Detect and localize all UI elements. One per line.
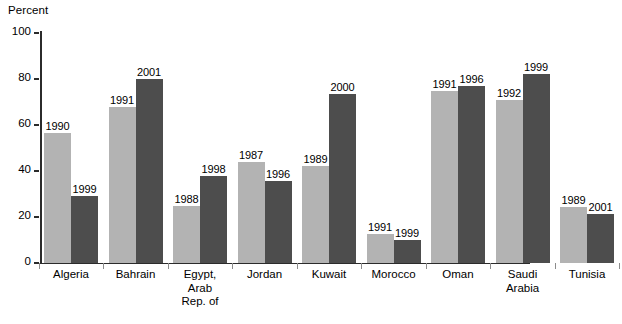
bar-year-label: 1987 <box>239 149 263 161</box>
bar: 2001 <box>587 33 614 263</box>
bar-year-label: 1992 <box>497 87 521 99</box>
bar: 1988 <box>173 33 200 263</box>
y-tick-mark <box>34 216 39 218</box>
bar-fill <box>109 107 136 263</box>
bar: 1996 <box>265 33 292 263</box>
x-axis-group-separator <box>361 263 362 269</box>
bar-fill <box>496 100 523 263</box>
bar: 1989 <box>560 33 587 263</box>
bar-group-bars: 19892001 <box>560 33 614 263</box>
bar-fill <box>136 79 163 263</box>
x-axis-group-separator <box>555 263 556 269</box>
x-axis-group-separator <box>426 263 427 269</box>
y-tick-mark <box>34 170 39 172</box>
bar-year-label: 2000 <box>330 81 354 93</box>
x-axis-category-label: Bahrain <box>101 268 171 282</box>
bar-fill <box>560 207 587 263</box>
bar: 2000 <box>329 33 356 263</box>
x-axis-category-label: Kuwait <box>294 268 364 282</box>
bar-fill <box>394 240 421 263</box>
bar: 1996 <box>458 33 485 263</box>
bar-year-label: 1999 <box>395 227 419 239</box>
bar-year-label: 1998 <box>201 163 225 175</box>
x-axis-group-separator <box>168 263 169 269</box>
bar-year-label: 1988 <box>174 193 198 205</box>
bar-year-label: 1991 <box>368 221 392 233</box>
bar-fill <box>173 206 200 264</box>
y-tick-mark <box>34 78 39 80</box>
bar: 1999 <box>71 33 98 263</box>
bar-year-label: 1991 <box>110 94 134 106</box>
bar-year-label: 1989 <box>303 153 327 165</box>
bar-group: 19911996 <box>431 33 485 263</box>
bar: 1989 <box>302 33 329 263</box>
bar-year-label: 1991 <box>432 78 456 90</box>
x-axis-category-label: Jordan <box>230 268 300 282</box>
bar-group-bars: 19911999 <box>367 33 421 263</box>
x-axis-category-label: Saudi Arabia <box>488 268 558 295</box>
y-tick-label: 20 <box>18 209 31 221</box>
bar-group-bars: 19871996 <box>238 33 292 263</box>
bar: 1992 <box>496 33 523 263</box>
bar-fill <box>238 162 265 263</box>
y-tick-label: 60 <box>18 117 31 129</box>
bar: 1991 <box>431 33 458 263</box>
bar-fill <box>200 176 227 263</box>
y-tick-label: 40 <box>18 163 31 175</box>
bar: 1991 <box>109 33 136 263</box>
x-axis-category-label: Oman <box>423 268 493 282</box>
bar-group-bars: 19881998 <box>173 33 227 263</box>
bar-group: 19892000 <box>302 33 356 263</box>
bar: 1999 <box>394 33 421 263</box>
bar-fill <box>523 74 550 263</box>
bar-group: 19921999 <box>496 33 550 263</box>
x-axis-category-label: Morocco <box>359 268 429 282</box>
bar: 1998 <box>200 33 227 263</box>
bar-fill <box>587 214 614 263</box>
x-axis-group-separator <box>103 263 104 269</box>
y-tick-label: 0 <box>25 255 31 267</box>
bar-group: 19892001 <box>560 33 614 263</box>
bar-fill <box>265 181 292 263</box>
bar-group: 19901999 <box>44 33 98 263</box>
x-axis-group-separator <box>297 263 298 269</box>
x-axis-category-label: Algeria <box>36 268 106 282</box>
bar-fill <box>458 86 485 263</box>
bar-group: 19881998 <box>173 33 227 263</box>
bar-group-bars: 19901999 <box>44 33 98 263</box>
x-axis-category-label: Egypt, Arab Rep. of <box>165 268 235 309</box>
bar-group: 19912001 <box>109 33 163 263</box>
bar: 1990 <box>44 33 71 263</box>
bar-year-label: 1996 <box>459 73 483 85</box>
x-axis-group-separator <box>619 263 620 269</box>
bar-year-label: 1996 <box>266 168 290 180</box>
bar-year-label: 1989 <box>561 194 585 206</box>
bar-fill <box>44 133 71 263</box>
y-tick-label: 80 <box>18 71 31 83</box>
bar-fill <box>367 234 394 263</box>
y-axis-title: Percent <box>8 4 48 16</box>
bar-fill <box>71 196 98 263</box>
bar-group-bars: 19911996 <box>431 33 485 263</box>
y-tick-mark <box>34 124 39 126</box>
bar-group-bars: 19912001 <box>109 33 163 263</box>
bar-fill <box>302 166 329 263</box>
bar: 1987 <box>238 33 265 263</box>
x-axis-group-separator <box>232 263 233 269</box>
bar: 1991 <box>367 33 394 263</box>
x-axis-group-separator <box>490 263 491 269</box>
y-tick-mark <box>34 32 39 34</box>
y-tick-label: 100 <box>12 25 31 37</box>
bar-group-bars: 19921999 <box>496 33 550 263</box>
bar-year-label: 2001 <box>588 201 612 213</box>
bar: 1999 <box>523 33 550 263</box>
bar-fill <box>431 91 458 264</box>
bar-group: 19911999 <box>367 33 421 263</box>
bar: 2001 <box>136 33 163 263</box>
bar-year-label: 1990 <box>45 120 69 132</box>
x-axis-category-label: Tunisia <box>552 268 622 282</box>
x-axis-group-separator <box>39 263 40 269</box>
bar-fill <box>329 94 356 263</box>
bar-group-bars: 19892000 <box>302 33 356 263</box>
